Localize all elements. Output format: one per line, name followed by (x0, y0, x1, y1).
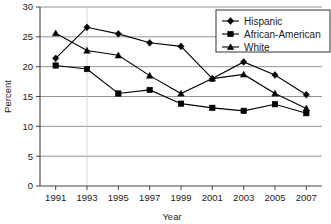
data-point-square (210, 105, 215, 110)
x-tick-label: 1993 (76, 192, 97, 203)
line-chart: 051015202530 199119931995199719992001200… (0, 0, 331, 224)
data-point-square (272, 102, 277, 107)
data-point-square (84, 66, 89, 71)
y-tick-label: 15 (22, 91, 33, 102)
x-tick-label: 2005 (264, 192, 285, 203)
x-tick-label: 1991 (45, 192, 66, 203)
x-tick-label: 2003 (233, 192, 254, 203)
data-point-triangle (84, 47, 90, 53)
y-tick-labels: 051015202530 (22, 1, 33, 191)
data-point-diamond (147, 39, 153, 46)
y-axis (36, 7, 40, 186)
data-point-diamond (303, 91, 309, 98)
data-point-square (178, 101, 183, 106)
data-point-triangle (146, 72, 152, 78)
x-axis-title: Year (162, 211, 181, 222)
data-point-triangle (178, 90, 184, 96)
legend-label: White (244, 42, 270, 53)
data-point-diamond (272, 72, 278, 79)
data-point-triangle (303, 105, 309, 111)
y-axis-title: Percent (2, 80, 13, 113)
y-tick-label: 0 (28, 180, 33, 191)
data-point-square (147, 87, 152, 92)
x-tick-label: 2007 (296, 192, 317, 203)
data-point-diamond (241, 58, 247, 65)
data-point-triangle (272, 90, 278, 96)
data-point-square (228, 31, 233, 36)
data-point-triangle (240, 71, 246, 77)
y-tick-label: 20 (22, 61, 33, 72)
data-point-square (116, 91, 121, 96)
data-point-diamond (115, 30, 121, 37)
y-tick-label: 30 (22, 1, 33, 12)
legend: HispanicAfrican-AmericanWhite (216, 10, 330, 53)
series-african-american (53, 63, 309, 116)
x-tick-labels: 199119931995199719992001200320052007 (45, 192, 317, 203)
x-tick-label: 1999 (170, 192, 191, 203)
x-tick-label: 1995 (108, 192, 129, 203)
data-point-square (53, 63, 58, 68)
data-point-square (241, 108, 246, 113)
x-tick-label: 2001 (202, 192, 223, 203)
x-tick-label: 1997 (139, 192, 160, 203)
legend-label: Hispanic (244, 16, 282, 27)
chart-canvas: 051015202530 199119931995199719992001200… (0, 0, 331, 224)
y-tick-label: 10 (22, 121, 33, 132)
data-point-triangle (52, 30, 58, 36)
legend-label: African-American (244, 29, 321, 40)
y-tick-label: 5 (28, 151, 33, 162)
x-axis (40, 186, 322, 190)
y-tick-label: 25 (22, 31, 33, 42)
